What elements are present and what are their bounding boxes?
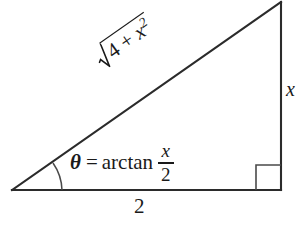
fraction-denominator: 2 (158, 165, 174, 185)
base-side-label: 2 (134, 196, 145, 217)
arctan-function-name: arctan (102, 152, 158, 173)
theta-equation: θ = arctan x 2 (70, 140, 174, 184)
fraction-numerator: x (159, 141, 173, 161)
vertical-side-label: x (286, 79, 295, 99)
right-angle-square-icon (256, 165, 281, 190)
equals-sign: = (85, 152, 102, 173)
theta-symbol: θ (70, 152, 85, 173)
fraction-x-over-2: x 2 (158, 141, 174, 184)
angle-arc-icon (53, 163, 62, 190)
